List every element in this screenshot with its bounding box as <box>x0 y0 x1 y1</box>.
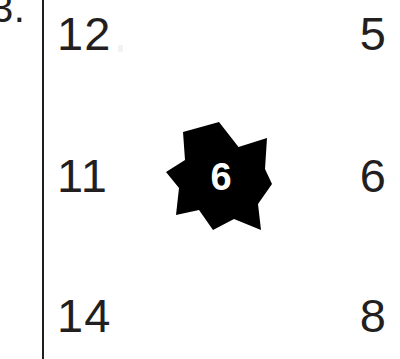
table-cell-left-row3: 14 <box>57 292 111 339</box>
problem-number: 3. <box>0 0 25 31</box>
scan-artifact-speck <box>118 45 123 52</box>
table-cell-left-row1: 12 <box>57 10 111 57</box>
seven-point-star-icon <box>166 122 272 230</box>
table-cell-left-row2: 11 <box>57 152 108 199</box>
star-badge: 6 <box>166 122 272 230</box>
worksheet-fragment: 3. 12 5 11 6 14 8 6 <box>0 0 400 359</box>
column-divider-line <box>42 0 44 359</box>
table-cell-right-row2: 6 <box>360 152 387 199</box>
table-cell-right-row3: 8 <box>360 292 387 339</box>
table-cell-right-row1: 5 <box>360 10 387 57</box>
